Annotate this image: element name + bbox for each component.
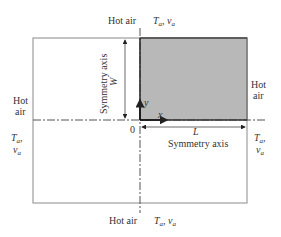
right-conditions-line2: va [256, 144, 264, 157]
right-medium-label-line1: Hot [251, 79, 266, 90]
y-axis-label: y [143, 97, 149, 108]
bottom-medium-label: Hot air [109, 215, 138, 226]
width-dimension-label: W [108, 76, 119, 86]
bottom-conditions-label: Ta, va [154, 215, 177, 228]
horizontal-symmetry-axis-label: Symmetry axis [168, 138, 228, 149]
length-dimension-label: L [192, 126, 199, 137]
shaded-quarter-region [140, 38, 247, 120]
left-medium-label-line2: air [15, 106, 26, 117]
left-medium-label-line1: Hot [13, 95, 28, 106]
top-medium-label: Hot air [108, 15, 137, 26]
heat-transfer-diagram: Hot air Ta, va Hot air Ta, va Hot air Ta… [0, 0, 281, 237]
x-axis-label: x [157, 109, 163, 120]
top-conditions-label: Ta, va [153, 15, 176, 28]
left-conditions-line2: va [13, 144, 21, 157]
right-medium-label-line2: air [253, 90, 264, 101]
origin-label: 0 [130, 124, 135, 135]
